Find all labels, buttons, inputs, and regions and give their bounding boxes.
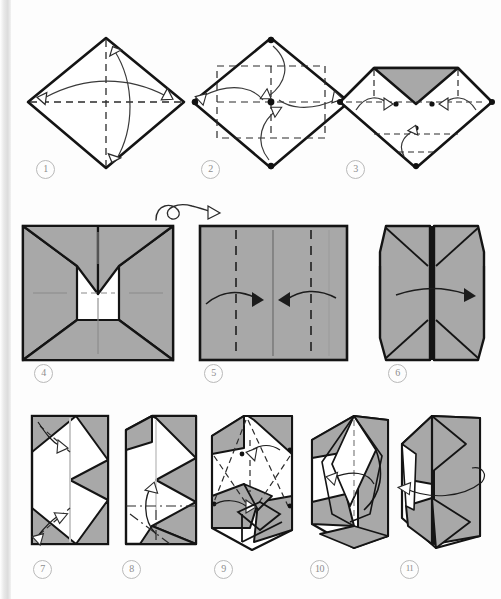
figure-step-6 (372, 222, 492, 364)
figure-step-4 (19, 222, 177, 364)
figure-step-11 (392, 410, 496, 552)
figure-step-2 (189, 34, 354, 174)
step-label-10: 10 (310, 560, 329, 579)
step-label-9: 9 (214, 560, 233, 579)
origami-diagram-page: 1 (0, 0, 501, 599)
step-label-11: 11 (400, 560, 419, 579)
step-label-7: 7 (33, 560, 52, 579)
step-label-1: 1 (36, 160, 55, 179)
figure-step-3 (336, 34, 496, 174)
figure-step-5 (196, 222, 351, 364)
figure-step-1 (24, 34, 189, 174)
step-label-2: 2 (201, 160, 220, 179)
step-label-8: 8 (122, 560, 141, 579)
figure-step-7 (24, 410, 116, 550)
step-label-3: 3 (346, 160, 365, 179)
step-label-4: 4 (34, 364, 53, 383)
figure-step-9 (198, 410, 306, 552)
step-1-diamond (28, 38, 184, 168)
step-9-flap-tl (212, 416, 244, 454)
step-3-body (340, 68, 492, 168)
step-label-6: 6 (388, 364, 407, 383)
step-label-5: 5 (204, 364, 223, 383)
figure-step-10 (298, 410, 402, 552)
figure-step-8 (112, 410, 204, 550)
step-2-center-dot (268, 99, 275, 106)
